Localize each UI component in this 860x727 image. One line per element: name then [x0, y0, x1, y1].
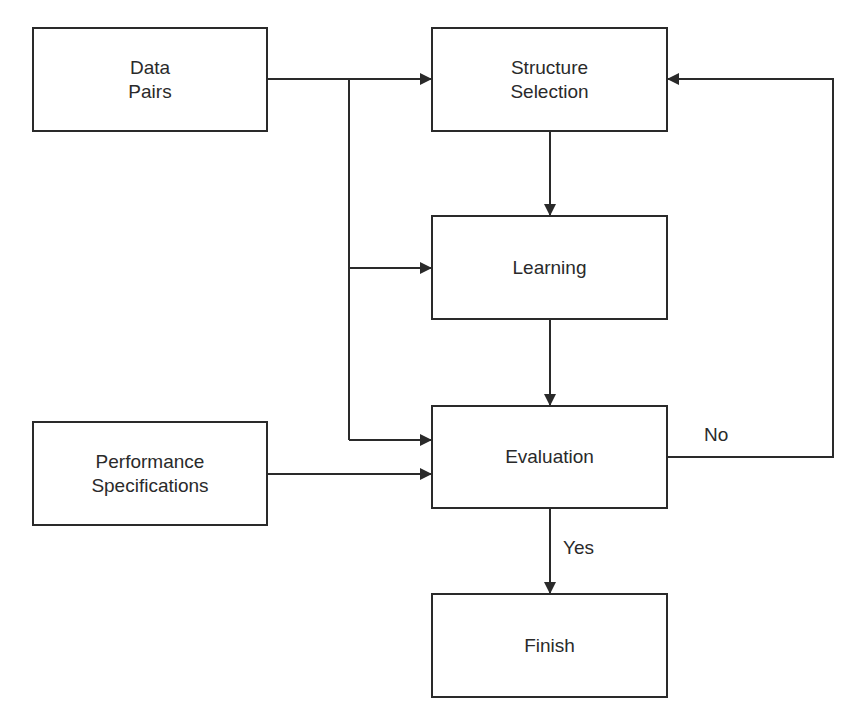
node-finish-label: Finish: [524, 634, 575, 658]
edge-evaluation-no-to-structure: [667, 79, 833, 457]
node-finish: Finish: [431, 593, 668, 698]
edge-label-yes: Yes: [563, 537, 594, 559]
node-evaluation: Evaluation: [431, 405, 668, 509]
node-structure-selection: Structure Selection: [431, 27, 668, 132]
node-evaluation-label: Evaluation: [505, 445, 594, 469]
edge-label-no: No: [704, 424, 728, 446]
node-learning: Learning: [431, 215, 668, 320]
node-structure-selection-label: Structure Selection: [510, 56, 588, 104]
node-performance-specifications: Performance Specifications: [32, 421, 268, 526]
node-learning-label: Learning: [513, 256, 587, 280]
node-data-pairs-label: Data Pairs: [128, 56, 171, 104]
node-data-pairs: Data Pairs: [32, 27, 268, 132]
node-performance-specifications-label: Performance Specifications: [91, 450, 208, 498]
